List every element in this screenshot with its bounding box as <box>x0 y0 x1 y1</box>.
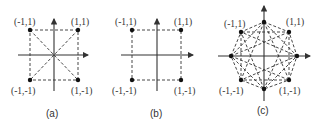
label-neg1-1: (-1,1) <box>115 17 136 28</box>
label-1-1: (1,1) <box>286 17 304 28</box>
label-neg1-1: (-1,1) <box>14 17 35 28</box>
label-neg1-neg1: (-1,-1) <box>219 86 244 97</box>
label-neg1-neg1: (-1,-1) <box>112 86 137 97</box>
point-neg1-1 <box>130 28 134 32</box>
point-neg1-1 <box>28 28 32 32</box>
point-1-1 <box>179 28 183 32</box>
point-right <box>295 54 299 58</box>
caption-b: (b) <box>150 108 162 119</box>
point-neg1-neg1 <box>28 78 32 82</box>
caption-c: (c) <box>257 105 269 116</box>
label-1-neg1: (1,-1) <box>174 86 195 97</box>
point-top <box>262 20 266 24</box>
label-1-neg1: (1,-1) <box>279 86 300 97</box>
label-neg1-neg1: (-1,-1) <box>11 86 36 97</box>
point-neg1-neg1 <box>239 78 243 82</box>
point-1-neg1 <box>76 78 80 82</box>
label-1-1: (1,1) <box>71 17 89 28</box>
panel-c: (-1,1) (1,1) (-1,-1) (1,-1) (c) <box>218 6 310 116</box>
label-1-neg1: (1,-1) <box>71 86 92 97</box>
point-left <box>229 54 233 58</box>
point-neg1-neg1 <box>130 78 134 82</box>
point-1-1 <box>76 28 80 32</box>
label-1-1: (1,1) <box>174 17 192 28</box>
point-1-neg1 <box>287 78 291 82</box>
panel-b: (-1,1) (1,1) (-1,-1) (1,-1) (b) <box>112 17 195 119</box>
point-bottom <box>262 87 266 91</box>
point-1-1 <box>287 30 291 34</box>
point-1-neg1 <box>179 78 183 82</box>
panel-a: (-1,1) (1,1) (-1,-1) (1,-1) (a) <box>11 17 92 119</box>
constellation-figure: (-1,1) (1,1) (-1,-1) (1,-1) (a) (-1,1) (… <box>0 0 322 126</box>
point-neg1-1 <box>239 30 243 34</box>
caption-a: (a) <box>46 108 58 119</box>
label-neg1-1: (-1,1) <box>224 19 245 30</box>
